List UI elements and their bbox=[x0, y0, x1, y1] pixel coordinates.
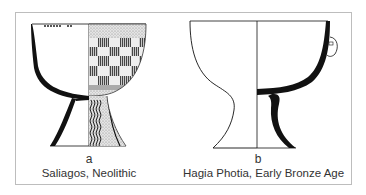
pottery-illustration bbox=[0, 0, 366, 195]
figure-a-caption: Saliagos, Neolithic bbox=[39, 167, 139, 179]
cup-a-drawing bbox=[31, 24, 149, 148]
cup-b-drawing bbox=[190, 21, 337, 148]
figure-a-letter: a bbox=[79, 152, 99, 166]
figure-b-caption: Hagia Photia, Early Bronze Age bbox=[183, 167, 333, 179]
figure-b-letter: b bbox=[248, 152, 268, 166]
